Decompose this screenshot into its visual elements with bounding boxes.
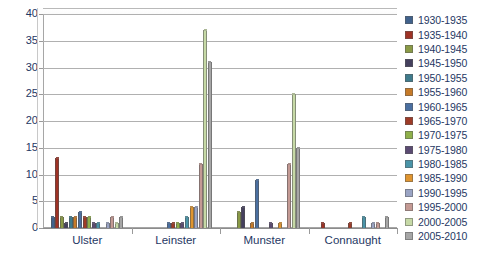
bar-group-leinster — [132, 14, 221, 228]
x-axis-separator — [397, 228, 398, 234]
y-tick-label-15: 15 — [2, 141, 38, 153]
bar-1955-1960-munster — [250, 223, 254, 228]
y-tick-label-0: 0 — [2, 221, 38, 233]
bar-top-cap — [97, 222, 100, 224]
bar-top-cap — [106, 222, 109, 224]
x-axis-separator — [132, 228, 133, 234]
legend-label: 1945-1950 — [418, 57, 467, 69]
legend-item-1965-1970[interactable]: 1965-1970 — [405, 114, 497, 128]
bar-chart: 4035302520151050 UlsterLeinsterMunsterCo… — [0, 0, 497, 262]
bar-top-cap — [120, 216, 123, 218]
legend-label: 2000-2005 — [418, 216, 467, 228]
legend-item-1980-1985[interactable]: 1980-1985 — [405, 157, 497, 171]
legend-item-1995-2000[interactable]: 1995-2000 — [405, 200, 497, 214]
legend-item-1935-1940[interactable]: 1935-1940 — [405, 27, 497, 41]
y-tickmark-25 — [39, 94, 43, 95]
bar-top-cap — [251, 222, 254, 224]
legend-label: 1995-2000 — [418, 201, 467, 213]
y-tick-label-30: 30 — [2, 61, 38, 73]
legend-label: 1950-1955 — [418, 72, 467, 84]
y-tick-label-10: 10 — [2, 168, 38, 180]
legend-swatch-icon — [405, 189, 413, 197]
bar-top-cap — [167, 222, 170, 224]
bar-top-cap — [51, 216, 54, 218]
x-axis-separator — [220, 228, 221, 234]
bar-1935-1940-ulster — [55, 158, 59, 228]
bar-1935-1940-connaught — [321, 223, 325, 228]
bar-top-cap — [349, 222, 352, 224]
bar-top-cap — [74, 216, 77, 218]
bar-1985-1990-leinster — [190, 207, 194, 228]
bar-1975-1980-ulster — [92, 223, 96, 228]
y-tickmark-10 — [39, 175, 43, 176]
bar-group-munster — [220, 14, 309, 228]
legend-item-1955-1960[interactable]: 1955-1960 — [405, 85, 497, 99]
legend-label: 2005-2010 — [418, 230, 467, 242]
bar-top-cap — [115, 222, 118, 224]
bar-1990-1995-connaught — [371, 223, 375, 228]
bar-1975-1980-munster — [269, 223, 273, 228]
legend-item-1950-1955[interactable]: 1950-1955 — [405, 71, 497, 85]
y-axis: 4035302520151050 — [0, 14, 38, 228]
legend-swatch-icon — [405, 59, 413, 67]
legend-label: 1970-1975 — [418, 129, 467, 141]
bar-1970-1975-leinster — [176, 223, 180, 228]
bar-1995-2000-munster — [287, 164, 291, 228]
legend-item-2000-2005[interactable]: 2000-2005 — [405, 214, 497, 228]
legend-item-1990-1995[interactable]: 1990-1995 — [405, 186, 497, 200]
bar-1995-2000-leinster — [199, 164, 203, 228]
bar-top-cap — [321, 222, 324, 224]
bar-1950-1955-ulster — [69, 217, 73, 228]
bar-1980-1985-ulster — [96, 223, 100, 228]
bar-1985-1990-munster — [278, 223, 282, 228]
bar-group-ulster — [43, 14, 132, 228]
bar-top-cap — [204, 29, 207, 31]
bar-top-cap — [292, 93, 295, 95]
bar-top-cap — [60, 216, 63, 218]
bar-1970-1975-ulster — [87, 217, 91, 228]
legend-label: 1965-1970 — [418, 115, 467, 127]
legend-swatch-icon — [405, 88, 413, 96]
legend-swatch-icon — [405, 103, 413, 111]
bar-top-cap — [297, 147, 300, 149]
legend-label: 1935-1940 — [418, 29, 467, 41]
bar-2005-2010-leinster — [208, 62, 212, 228]
bar-2005-2010-munster — [296, 148, 300, 228]
bar-top-cap — [288, 163, 291, 165]
legend-item-1970-1975[interactable]: 1970-1975 — [405, 128, 497, 142]
bar-1945-1950-munster — [241, 207, 245, 228]
x-label-connaught: Connaught — [309, 234, 398, 254]
bar-1990-1995-ulster — [106, 223, 110, 228]
legend-item-1985-1990[interactable]: 1985-1990 — [405, 171, 497, 185]
y-tick-label-25: 25 — [2, 87, 38, 99]
bar-1980-1985-leinster — [185, 217, 189, 228]
legend-swatch-icon — [405, 174, 413, 182]
bar-groups — [43, 14, 397, 228]
bar-1960-1965-leinster — [167, 223, 171, 228]
bar-top-cap — [195, 206, 198, 208]
bar-top-cap — [65, 222, 68, 224]
legend-item-1930-1935[interactable]: 1930-1935 — [405, 13, 497, 27]
bar-1960-1965-munster — [255, 180, 259, 228]
bar-1965-1970-connaught — [348, 223, 352, 228]
bar-top-cap — [385, 216, 388, 218]
bar-top-cap — [256, 179, 259, 181]
bar-top-cap — [111, 216, 114, 218]
bar-1995-2000-ulster — [110, 217, 114, 228]
bar-top-cap — [172, 222, 175, 224]
legend-item-1940-1945[interactable]: 1940-1945 — [405, 42, 497, 56]
legend-swatch-icon — [405, 74, 413, 82]
bar-top-cap — [362, 216, 365, 218]
bar-1965-1970-ulster — [83, 217, 87, 228]
legend-swatch-icon — [405, 45, 413, 53]
legend-swatch-icon — [405, 16, 413, 24]
bar-1975-1980-leinster — [180, 223, 184, 228]
legend-item-1945-1950[interactable]: 1945-1950 — [405, 56, 497, 70]
bar-1990-1995-leinster — [194, 207, 198, 228]
legend-item-1960-1965[interactable]: 1960-1965 — [405, 99, 497, 113]
legend-swatch-icon — [405, 218, 413, 226]
legend-item-1975-1980[interactable]: 1975-1980 — [405, 143, 497, 157]
bars — [51, 14, 125, 228]
bar-top-cap — [56, 157, 59, 159]
legend-item-2005-2010[interactable]: 2005-2010 — [405, 229, 497, 243]
